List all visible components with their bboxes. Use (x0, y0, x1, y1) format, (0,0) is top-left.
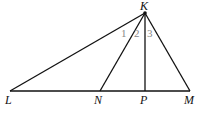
label-l: L (4, 93, 12, 107)
segment-kn (100, 13, 145, 91)
label-n: N (93, 93, 103, 107)
geometry-diagram: K L N P M 1 2 3 (0, 0, 197, 114)
segment-kl (10, 13, 145, 91)
angle-label-3: 3 (147, 27, 153, 39)
label-p: P (139, 93, 148, 107)
label-m: M (183, 93, 195, 107)
segment-km (145, 13, 190, 91)
angle-label-2: 2 (134, 27, 140, 39)
label-k: K (139, 0, 149, 13)
angle-label-1: 1 (121, 27, 127, 39)
